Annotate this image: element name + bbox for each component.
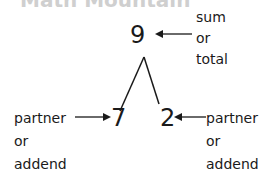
left-partner-label-1: partner xyxy=(14,109,66,127)
sum-value: 9 xyxy=(130,22,145,48)
left-partner-label-2: or xyxy=(14,132,28,150)
sum-label-2: or xyxy=(196,29,210,47)
sum-label-1: sum xyxy=(196,8,226,26)
right-partner-label-1: partner xyxy=(206,109,258,127)
left-partner-label-3: addend xyxy=(14,155,67,173)
right-partner-value: 2 xyxy=(160,105,175,131)
right-partner-label-2: or xyxy=(206,132,220,150)
sum-label-3: total xyxy=(196,50,228,68)
right-partner-label-3: addend xyxy=(206,155,259,173)
left-partner-value: 7 xyxy=(111,105,126,131)
